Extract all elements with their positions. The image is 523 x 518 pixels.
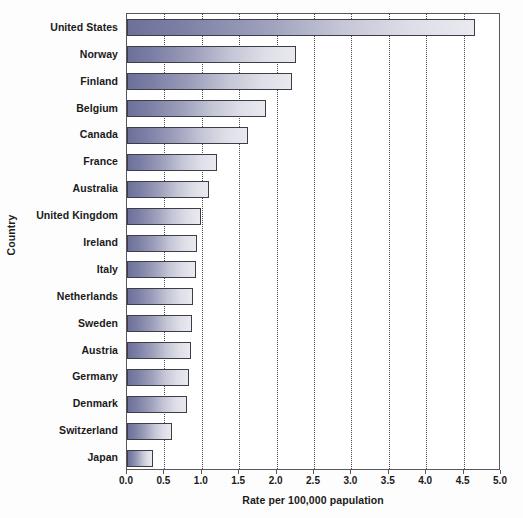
bar-row [127, 288, 500, 305]
category-label: Sweden [78, 316, 118, 330]
bar [127, 127, 248, 144]
x-tick-mark [163, 470, 164, 474]
bar-chart-figure: Country United StatesNorwayFinlandBelgiu… [0, 0, 523, 518]
category-label: Japan [87, 450, 118, 464]
bar [127, 73, 292, 90]
category-label: Norway [80, 47, 118, 61]
x-tick-label: 5.0 [493, 475, 507, 486]
bar [127, 450, 153, 467]
x-tick-mark [388, 470, 389, 474]
category-label: Finland [80, 74, 118, 88]
x-tick-label: 3.0 [343, 475, 357, 486]
x-tick-label: 2.5 [306, 475, 320, 486]
x-tick-mark [463, 470, 464, 474]
x-axis-ticks: 0.00.51.01.52.02.53.03.54.04.55.0 [126, 470, 500, 492]
x-tick-label: 4.5 [456, 475, 470, 486]
bar-row [127, 315, 500, 332]
bar [127, 396, 187, 413]
x-tick-mark [313, 470, 314, 474]
plot-area [126, 13, 500, 470]
category-label: Ireland [83, 235, 118, 249]
x-tick-label: 1.0 [194, 475, 208, 486]
category-label: Belgium [76, 101, 118, 115]
bar-row [127, 235, 500, 252]
bar [127, 19, 475, 36]
bar-row [127, 450, 500, 467]
category-label: France [83, 154, 118, 168]
bar-row [127, 127, 500, 144]
bar [127, 208, 201, 225]
x-tick-label: 0.0 [119, 475, 133, 486]
category-label: Australia [73, 181, 118, 195]
bar [127, 342, 191, 359]
x-tick-label: 4.0 [418, 475, 432, 486]
x-tick-mark [500, 470, 501, 474]
x-tick-label: 3.5 [381, 475, 395, 486]
bar [127, 369, 189, 386]
bar [127, 46, 296, 63]
bar [127, 181, 209, 198]
bar-row [127, 261, 500, 278]
category-label: United States [50, 20, 118, 34]
category-label: Austria [81, 343, 118, 357]
category-axis-labels: United StatesNorwayFinlandBelgiumCanadaF… [18, 13, 122, 470]
y-axis-title-text: Country [5, 215, 17, 256]
bar-row [127, 73, 500, 90]
x-tick-mark [350, 470, 351, 474]
category-label: Italy [97, 262, 118, 276]
x-tick-mark [425, 470, 426, 474]
bar [127, 235, 197, 252]
category-label: Netherlands [57, 289, 118, 303]
bar-row [127, 396, 500, 413]
bar-row [127, 369, 500, 386]
x-axis-title: Rate per 100,000 papulation [126, 494, 500, 506]
x-tick-mark [201, 470, 202, 474]
bar [127, 288, 193, 305]
bar [127, 423, 172, 440]
x-tick-label: 2.0 [269, 475, 283, 486]
bar [127, 315, 192, 332]
bar [127, 261, 196, 278]
x-tick-mark [276, 470, 277, 474]
category-label: Switzerland [59, 423, 118, 437]
bar-row [127, 46, 500, 63]
bar-row [127, 100, 500, 117]
category-label: Denmark [73, 396, 118, 410]
bar-row [127, 423, 500, 440]
bar-row [127, 181, 500, 198]
bar-row [127, 342, 500, 359]
x-tick-mark [238, 470, 239, 474]
category-label: Canada [80, 127, 118, 141]
x-tick-label: 0.5 [156, 475, 170, 486]
category-label: United Kingdom [36, 208, 118, 222]
x-tick-mark [126, 470, 127, 474]
x-tick-label: 1.5 [231, 475, 245, 486]
bar [127, 154, 217, 171]
category-label: Germany [72, 369, 118, 383]
bar-row [127, 208, 500, 225]
bar-row [127, 154, 500, 171]
bar [127, 100, 266, 117]
bar-row [127, 19, 500, 36]
